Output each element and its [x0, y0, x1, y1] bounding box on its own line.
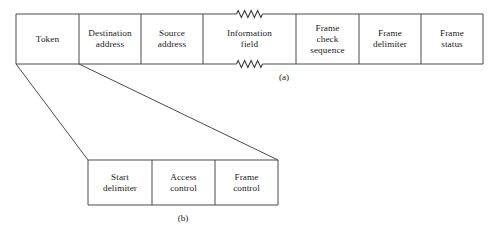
caption-b: (b) [163, 213, 203, 224]
caption-a: (a) [264, 72, 304, 83]
frame-a-geometry [16, 11, 483, 68]
frame-b-geometry [88, 160, 278, 205]
expansion-leader-lines [16, 64, 278, 160]
diagram-geometry [0, 0, 498, 243]
frame-a-cell-3-break-bottom [237, 61, 263, 68]
left-leader [16, 64, 88, 160]
right-leader [79, 64, 278, 160]
frame-a-cell-3-break-top [237, 11, 263, 18]
token-ring-frame-diagram: TokenDestinationaddressSourceaddressInfo… [0, 0, 498, 243]
